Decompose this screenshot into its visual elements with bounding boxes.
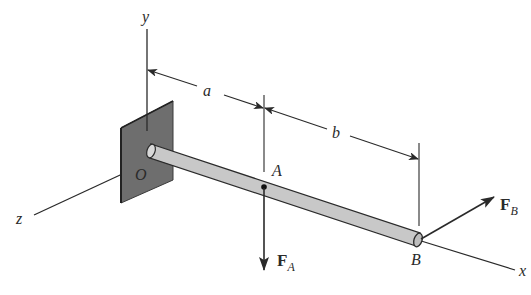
force-fb-arrow (421, 197, 494, 239)
dimension-a-left (148, 70, 197, 86)
y-axis-label: y (140, 8, 150, 26)
x-axis (418, 240, 515, 270)
point-b-label: B (411, 251, 421, 268)
x-axis-label: x (518, 262, 526, 279)
force-fa-label: FA (277, 251, 295, 274)
dimension-b-left (265, 108, 327, 129)
dimension-b-label: b (332, 124, 340, 141)
force-fb-label: FB (500, 195, 518, 218)
z-axis-label: z (15, 210, 23, 227)
point-a-label: A (271, 162, 282, 179)
cantilever-diagram: z y x O a b A FA FB B (0, 0, 531, 295)
dimension-a-right (224, 95, 263, 108)
dimension-b-right (350, 136, 418, 159)
rod (150, 144, 420, 246)
origin-label: O (135, 166, 147, 183)
dimension-a-label: a (203, 82, 211, 99)
